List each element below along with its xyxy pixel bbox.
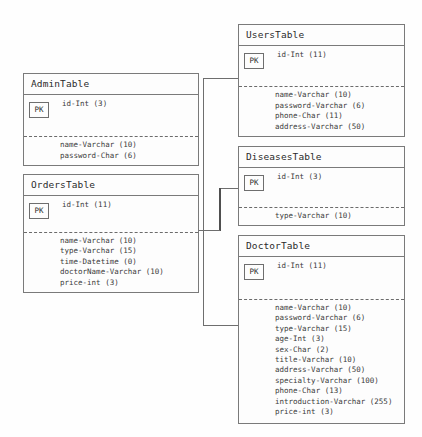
pk-badge-icon: PK bbox=[29, 203, 49, 219]
attribute-item: name-Varchar (10) bbox=[24, 140, 198, 150]
attribute-list-admin: name-Varchar (10) password-Char (6) bbox=[24, 137, 198, 165]
connector-users-horizontal bbox=[203, 78, 238, 79]
attribute-item: address-Varchar (50) bbox=[239, 122, 404, 132]
attribute-item: price-int (3) bbox=[239, 407, 404, 417]
attribute-list-doctor: name-Varchar (10) password-Varchar (6) t… bbox=[239, 300, 404, 421]
pk-row-diseases: PK id-Int (3) bbox=[239, 168, 404, 207]
attribute-item: address-Varchar (50) bbox=[239, 365, 404, 375]
pk-badge-icon: PK bbox=[244, 175, 264, 191]
entity-doctor-table[interactable]: DoctorTable PK id-Int (11) name-Varchar … bbox=[238, 235, 405, 424]
pk-row-users: PK id-Int (11) bbox=[239, 46, 404, 86]
entity-title-orders: OrdersTable bbox=[24, 175, 198, 196]
attribute-item: phone-Char (13) bbox=[239, 386, 404, 396]
attribute-item: name-Varchar (10) bbox=[239, 90, 404, 100]
attribute-item: type-Varchar (15) bbox=[239, 324, 404, 334]
attribute-item: password-Varchar (6) bbox=[239, 313, 404, 323]
attribute-list-users: name-Varchar (10) password-Varchar (6) p… bbox=[239, 87, 404, 136]
entity-users-table[interactable]: UsersTable PK id-Int (11) name-Varchar (… bbox=[238, 24, 405, 137]
pk-field-orders: id-Int (11) bbox=[49, 200, 112, 209]
pk-badge-icon: PK bbox=[244, 264, 264, 280]
attribute-item: specialty-Varchar (100) bbox=[239, 376, 404, 386]
attribute-list-diseases: type-Varchar (10) bbox=[239, 208, 404, 225]
entity-title-diseases: DiseasesTable bbox=[239, 147, 404, 168]
pk-badge-icon: PK bbox=[244, 53, 264, 69]
connector-trunk-vertical bbox=[219, 188, 221, 231]
entity-diseases-table[interactable]: DiseasesTable PK id-Int (3) type-Varchar… bbox=[238, 146, 405, 226]
attribute-item: time-Datetime (0) bbox=[24, 257, 198, 267]
pk-field-doctor: id-Int (11) bbox=[264, 261, 327, 270]
pk-badge-icon: PK bbox=[29, 102, 49, 118]
entity-title-doctor: DoctorTable bbox=[239, 236, 404, 257]
entity-orders-table[interactable]: OrdersTable PK id-Int (11) name-Varchar … bbox=[23, 174, 199, 293]
attribute-list-orders: name-Varchar (10) type-Varchar (15) time… bbox=[24, 233, 198, 292]
attribute-item: age-Int (3) bbox=[239, 334, 404, 344]
attribute-item: type-Varchar (15) bbox=[24, 246, 198, 256]
entity-title-admin: AdminTable bbox=[24, 74, 198, 95]
attribute-item: sex-Char (2) bbox=[239, 345, 404, 355]
attribute-item: type-Varchar (10) bbox=[239, 211, 404, 221]
attribute-item: name-Varchar (10) bbox=[239, 303, 404, 313]
connector-doctor-horizontal bbox=[203, 325, 238, 326]
attribute-item: price-int (3) bbox=[24, 278, 198, 288]
attribute-item: title-Varchar (10) bbox=[239, 355, 404, 365]
entity-title-users: UsersTable bbox=[239, 25, 404, 46]
pk-field-diseases: id-Int (3) bbox=[264, 172, 322, 181]
attribute-item: password-Char (6) bbox=[24, 151, 198, 161]
connector-diseases-horizontal bbox=[219, 188, 238, 189]
pk-field-users: id-Int (11) bbox=[264, 50, 327, 59]
attribute-item: introduction-Varchar (255) bbox=[239, 397, 404, 407]
attribute-item: doctorName-Varchar (10) bbox=[24, 267, 198, 277]
attribute-item: name-Varchar (10) bbox=[24, 236, 198, 246]
pk-row-orders: PK id-Int (11) bbox=[24, 196, 198, 232]
pk-field-admin: id-Int (3) bbox=[49, 99, 107, 108]
pk-row-admin: PK id-Int (3) bbox=[24, 95, 198, 136]
attribute-item: phone-Char (11) bbox=[239, 111, 404, 121]
pk-row-doctor: PK id-Int (11) bbox=[239, 257, 404, 299]
schema-diagram-canvas: AdminTable PK id-Int (3) name-Varchar (1… bbox=[0, 0, 422, 437]
entity-admin-table[interactable]: AdminTable PK id-Int (3) name-Varchar (1… bbox=[23, 73, 199, 166]
attribute-item: password-Varchar (6) bbox=[239, 101, 404, 111]
connector-outer-vertical bbox=[203, 78, 204, 326]
